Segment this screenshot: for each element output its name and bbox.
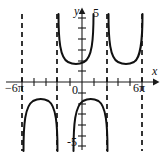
y-axis [79,8,86,151]
y-axis-label: y [74,5,79,17]
y-tick-label-5: 5 [93,7,99,19]
upper-left-branch [59,14,94,64]
lower-left-branch [24,99,58,151]
y-axis-arrow-icon [79,8,86,15]
x-tick-label-minus-6pi: −6π [5,82,24,94]
y-tick-label-minus-5: -5 [67,136,77,148]
x-axis-arrow-icon [153,79,160,86]
graph-figure: y x 5 -5 0 −6π 6π [0,0,164,154]
x-tick-label-6pi: 6π [133,82,145,94]
origin-label: 0 [72,84,78,96]
graph-canvas [0,0,164,154]
x-axis-label: x [152,65,157,77]
upper-right-branch [109,14,143,64]
